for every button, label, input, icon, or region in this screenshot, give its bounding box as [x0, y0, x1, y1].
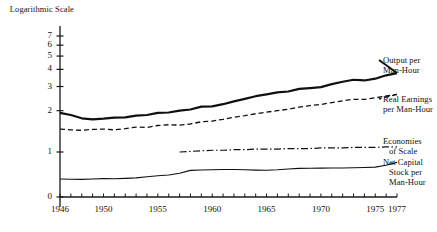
x-tick-label-1946: 1946	[45, 204, 75, 214]
y-tick-label-0: 0	[38, 191, 52, 201]
series-label-line: Man-Hour	[383, 177, 426, 187]
series-label-3: Net CapitalStock perMan-Hour	[383, 157, 426, 188]
y-tick-label-6: 6	[38, 39, 52, 49]
chart-tick-marks	[57, 36, 398, 197]
series-line-1	[60, 94, 397, 130]
chart-plot-area	[0, 0, 437, 232]
y-tick-label-5: 5	[38, 50, 52, 60]
series-label-line: Stock per	[383, 167, 426, 177]
y-tick-label-2: 2	[38, 105, 52, 115]
series-label-line: Real Earnings	[383, 94, 433, 104]
series-label-1: Real Earningsper Man-Hour	[383, 94, 433, 114]
x-tick-label-1970: 1970	[306, 204, 336, 214]
series-label-2: Economiesof Scale	[383, 136, 422, 156]
y-tick-label-7: 7	[38, 30, 52, 40]
x-tick-label-1965: 1965	[252, 204, 282, 214]
y-tick-label-1: 1	[38, 146, 52, 156]
x-tick-label-1960: 1960	[197, 204, 227, 214]
series-label-line: Economies	[383, 136, 422, 146]
y-tick-label-3: 3	[38, 81, 52, 91]
chart-series-lines	[60, 73, 397, 179]
series-label-0: Output perMan-Hour	[383, 55, 421, 75]
series-line-0	[60, 73, 397, 119]
series-label-line: Net Capital	[383, 157, 426, 167]
series-label-line: Man-Hour	[383, 65, 421, 75]
x-tick-label-1950: 1950	[88, 204, 118, 214]
series-label-line: Output per	[383, 55, 421, 65]
x-tick-label-1955: 1955	[143, 204, 173, 214]
y-tick-label-4: 4	[38, 63, 52, 73]
series-label-line: per Man-Hour	[383, 104, 433, 114]
chart-figure: Logarithmic Scale 01234567 1946195019551…	[0, 0, 437, 232]
chart-axes	[60, 26, 397, 207]
series-line-2	[180, 147, 397, 152]
x-tick-label-1977: 1977	[382, 204, 412, 214]
series-line-3	[60, 162, 397, 179]
series-label-line: of Scale	[383, 146, 422, 156]
